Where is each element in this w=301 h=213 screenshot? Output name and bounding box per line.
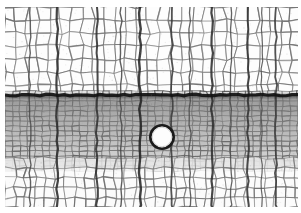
cell	[182, 6, 194, 21]
cell	[190, 71, 202, 85]
cell	[257, 6, 269, 21]
cell	[4, 46, 17, 60]
cell	[235, 5, 248, 20]
cell	[74, 197, 86, 208]
cell	[145, 179, 154, 187]
vessel-pore-lumen	[152, 127, 171, 146]
cell	[64, 177, 77, 187]
cell	[157, 71, 171, 86]
cell	[180, 21, 194, 33]
cell	[214, 19, 227, 32]
cell	[284, 178, 295, 188]
wood-section-image	[0, 0, 301, 213]
cell	[81, 58, 93, 73]
cell	[254, 177, 265, 189]
cell	[37, 57, 49, 72]
cell	[125, 20, 136, 33]
vessel-pore	[150, 125, 173, 148]
cell	[37, 7, 51, 21]
cell	[159, 32, 172, 46]
cell	[195, 189, 206, 199]
cell	[264, 177, 276, 189]
micrograph-figure	[0, 0, 301, 213]
cell	[104, 6, 116, 21]
cell	[234, 57, 249, 73]
ring-boundary-halo	[5, 94, 298, 99]
cell	[223, 71, 236, 86]
cell	[84, 178, 95, 189]
cell	[4, 197, 16, 208]
cell	[37, 20, 51, 33]
cell	[124, 44, 136, 59]
cell	[193, 177, 207, 189]
micrograph-plate	[0, 0, 301, 213]
growth-ring-boundary	[5, 94, 298, 99]
cell	[85, 188, 96, 200]
cell	[266, 197, 274, 208]
cell	[93, 19, 105, 34]
cell	[4, 32, 16, 48]
cell	[126, 32, 137, 46]
